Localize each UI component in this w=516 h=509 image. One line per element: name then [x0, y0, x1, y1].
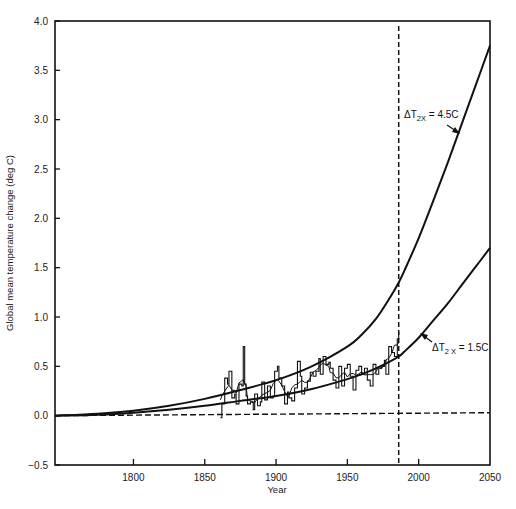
x-tick-label: 1850 [194, 472, 217, 483]
y-tick-label: 4.0 [34, 16, 48, 27]
y-tick-label: 0.0 [34, 410, 48, 421]
annotation-low-label: ΔT2 X = 1.5C [432, 342, 489, 356]
y-tick-label: −0.5 [28, 460, 48, 471]
x-tick-label: 2000 [408, 472, 431, 483]
arrow-head-low-icon [420, 333, 428, 340]
y-tick-label: 2.5 [34, 164, 48, 175]
model-curve-low-sensitivity [55, 248, 490, 416]
x-tick-label: 1950 [336, 472, 359, 483]
x-axis-title: Year [267, 484, 286, 495]
series-layer [55, 26, 490, 465]
annotation-low-sensitivity: ΔT2 X = 1.5C [420, 333, 489, 356]
y-tick-label: 3.0 [34, 114, 48, 125]
observed-smoothed-line [220, 342, 398, 403]
x-tick-label: 1800 [122, 472, 145, 483]
y-tick-label: 1.5 [34, 262, 48, 273]
y-axis-title: Global mean temperature change (deg C) [4, 155, 15, 331]
model-curve-high-sensitivity [55, 46, 490, 416]
x-tick-label: 2050 [479, 472, 502, 483]
annotation-high-label: ΔT2X = 4.5C [404, 109, 459, 123]
x-axis-ticks: 180018501900195020002050 [122, 459, 501, 483]
y-tick-label: 3.5 [34, 65, 48, 76]
annotation-high-sensitivity: ΔT2X = 4.5C [404, 109, 460, 134]
y-tick-label: 0.5 [34, 361, 48, 372]
temperature-chart: −0.50.00.51.01.52.02.53.03.54.0 18001850… [0, 0, 516, 509]
y-tick-label: 2.0 [34, 213, 48, 224]
x-tick-label: 1900 [265, 472, 288, 483]
y-tick-label: 1.0 [34, 312, 48, 323]
